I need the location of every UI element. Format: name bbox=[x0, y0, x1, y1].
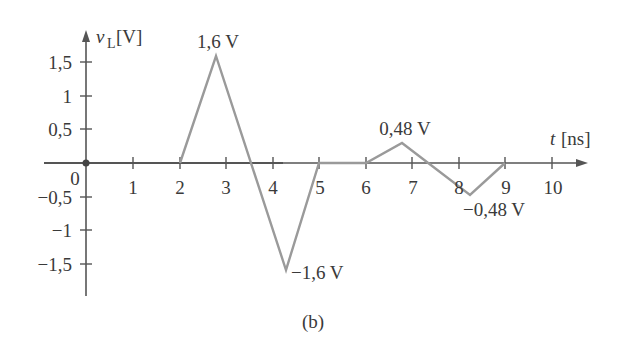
figure-caption: (b) bbox=[302, 311, 324, 333]
svg-text:t: t bbox=[550, 128, 556, 149]
x-tick-label: 3 bbox=[221, 177, 231, 198]
x-tick-label: 9 bbox=[501, 177, 511, 198]
x-tick-label: 5 bbox=[315, 177, 325, 198]
y-tick-label: 1 bbox=[63, 86, 73, 107]
y-tick-label: −1 bbox=[52, 220, 72, 241]
y-tick-label: 1,5 bbox=[48, 52, 72, 73]
origin-label: 0 bbox=[70, 168, 80, 189]
chart-canvas: 1 2 3 4 5 6 7 8 9 10 0 1,5 1 0,5 −0,5 −1… bbox=[0, 0, 626, 347]
svg-text:v: v bbox=[96, 26, 105, 47]
x-tick-label: 7 bbox=[408, 177, 418, 198]
svg-text:[V]: [V] bbox=[116, 26, 142, 47]
annotation-peak-2: 0,48 V bbox=[379, 118, 431, 139]
x-axis-title: t [ns] bbox=[550, 128, 591, 149]
y-tick-label: −0,5 bbox=[38, 187, 72, 208]
x-tick-label: 2 bbox=[175, 177, 185, 198]
x-tick-label: 1 bbox=[128, 177, 138, 198]
x-tick-label: 8 bbox=[454, 177, 464, 198]
y-axis-arrow-icon bbox=[82, 30, 90, 42]
x-axis-arrow-icon bbox=[576, 159, 588, 167]
origin-dot bbox=[83, 160, 90, 167]
annotation-trough-2: −0,48 V bbox=[463, 199, 525, 220]
x-tick-label: 10 bbox=[544, 177, 563, 198]
svg-text:[ns]: [ns] bbox=[561, 128, 591, 149]
x-tick-label: 4 bbox=[268, 177, 278, 198]
y-tick-label: −1,5 bbox=[38, 254, 72, 275]
annotation-trough-1: −1,6 V bbox=[291, 262, 344, 283]
svg-text:L: L bbox=[107, 36, 116, 51]
axes bbox=[44, 40, 283, 296]
annotation-peak-1: 1,6 V bbox=[197, 31, 239, 52]
y-axis-title: v L [V] bbox=[96, 26, 142, 51]
y-tick-label: 0,5 bbox=[48, 119, 72, 140]
x-tick-label: 6 bbox=[361, 177, 371, 198]
